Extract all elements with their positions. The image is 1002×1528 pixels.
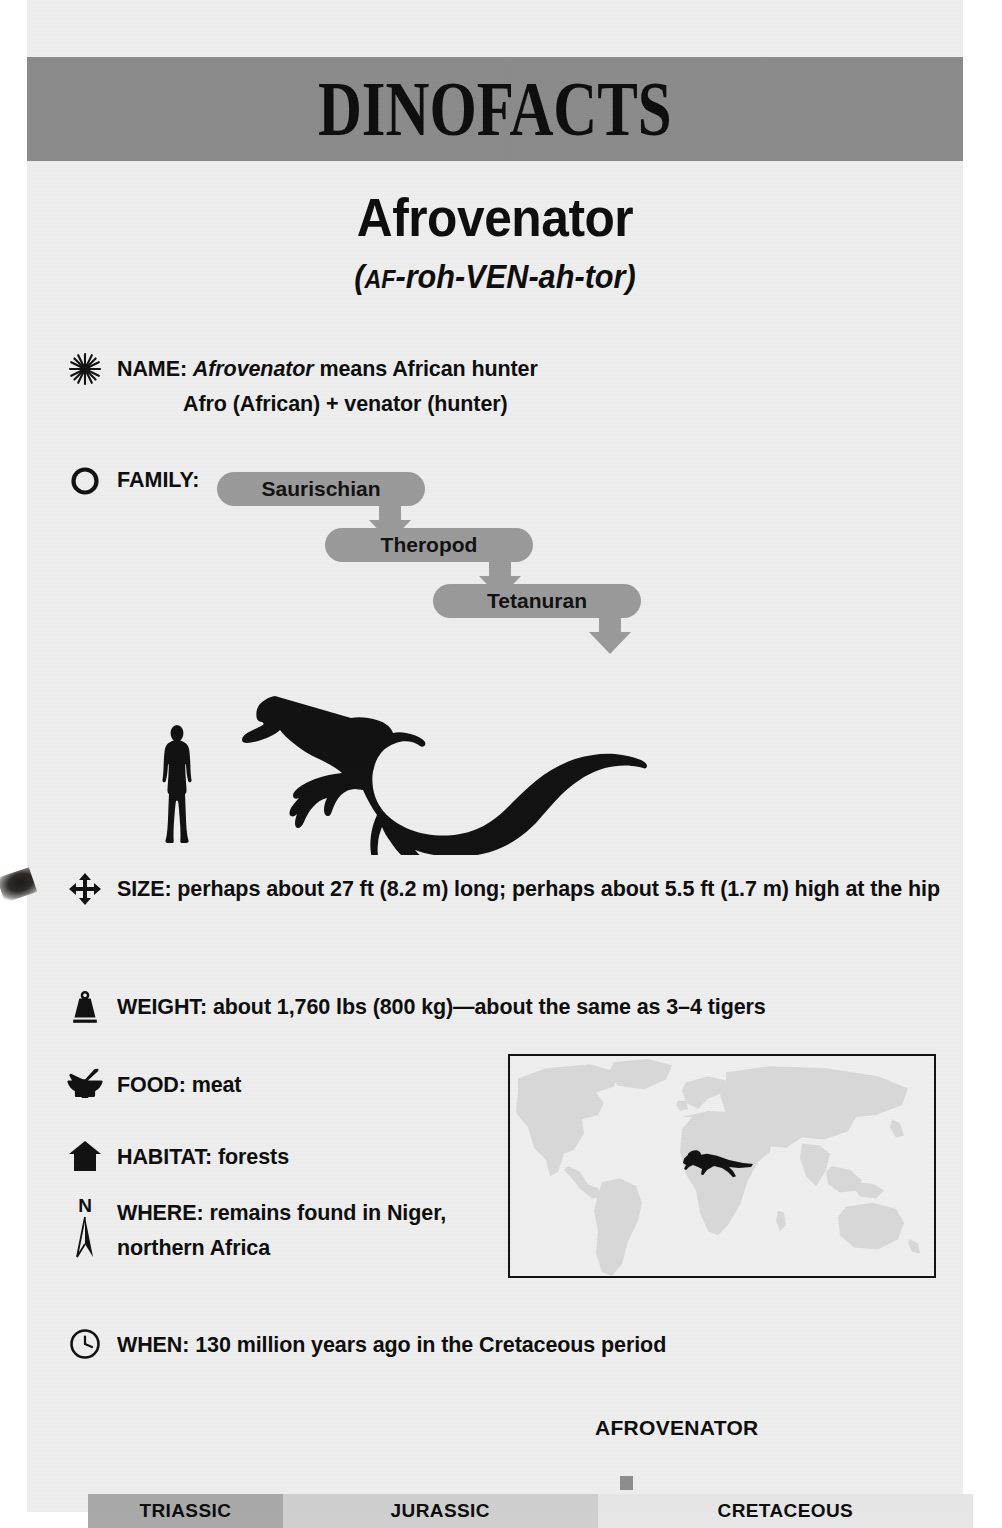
habitat-fact-text: HABITAT: forests [107, 1140, 289, 1175]
timeline-era-jurassic: JURASSIC [283, 1494, 598, 1528]
name-line-1: NAME: Afrovenator means African hunter [117, 352, 538, 387]
page-title: DINOFACTS [318, 70, 672, 148]
timeline-marker-square [620, 1476, 633, 1490]
name-label: NAME: [117, 357, 187, 381]
family-label: FAMILY: [107, 466, 199, 493]
pronunciation-open-paren: ( [354, 258, 364, 295]
scale-comparison-illustration [127, 640, 927, 855]
where-fact-text: WHERE: remains found in Niger, northern … [107, 1196, 446, 1266]
timeline-bar: TRIASSIC JURASSIC CRETACEOUS [88, 1494, 973, 1528]
family-pill-label: Theropod [381, 533, 478, 557]
dinosaur-pronunciation: (AF-roh-VEN-ah-tor) [60, 258, 930, 296]
family-pill-tetanuran: Tetanuran [433, 584, 641, 618]
family-step-1: Saurischian [217, 472, 425, 506]
mortar-pestle-icon [63, 1068, 107, 1098]
weight-fact-text: WEIGHT: about 1,760 lbs (800 kg)—about t… [107, 990, 766, 1025]
starburst-icon [63, 352, 107, 386]
weight-icon [63, 990, 107, 1024]
timeline-marker-label-text: AFROVENATOR [595, 1416, 759, 1440]
family-pill-saurischian: Saurischian [217, 472, 425, 506]
dinosaur-silhouette [215, 670, 845, 855]
pronunciation-small-caps: AF [364, 265, 395, 293]
family-pill-label: Tetanuran [487, 589, 587, 613]
fact-row-habitat: HABITAT: forests [63, 1140, 503, 1175]
house-icon [63, 1140, 107, 1172]
four-arrows-icon [63, 872, 107, 906]
timeline-era-triassic: TRIASSIC [88, 1494, 283, 1528]
family-step-2: Theropod [325, 528, 533, 562]
food-fact-text: FOOD: meat [107, 1068, 241, 1103]
pronunciation-rest: -roh-VEN-ah-tor) [395, 258, 635, 295]
compass-north-icon: N [63, 1196, 107, 1260]
fact-row-food: FOOD: meat [63, 1068, 503, 1103]
fact-sheet-page: DINOFACTS Afrovenator (AF-roh-VEN-ah-tor… [27, 0, 963, 1512]
family-pill-label: Saurischian [261, 477, 380, 501]
name-genus: Afrovenator [193, 357, 314, 381]
header-band: DINOFACTS [27, 57, 963, 161]
family-classification-chain: Saurischian Theropod Tetanuran [217, 466, 917, 636]
family-step-3: Tetanuran [433, 584, 641, 618]
fact-row-where: N WHERE: remains found in Niger, norther… [63, 1196, 503, 1266]
family-pill-theropod: Theropod [325, 528, 533, 562]
timeline-era-label: JURASSIC [391, 1500, 490, 1522]
clock-icon [63, 1328, 107, 1360]
compass-north-letter: N [78, 1196, 92, 1215]
where-line-2: northern Africa [117, 1231, 446, 1266]
timeline-era-label: TRIASSIC [139, 1500, 231, 1522]
where-line-1: WHERE: remains found in Niger, [117, 1196, 446, 1231]
fact-row-weight: WEIGHT: about 1,760 lbs (800 kg)—about t… [63, 990, 923, 1025]
fact-row-name: NAME: Afrovenator means African hunter A… [63, 352, 823, 422]
name-line-2: Afro (African) + venator (hunter) [117, 387, 538, 422]
fact-row-size: SIZE: perhaps about 27 ft (8.2 m) long; … [63, 872, 943, 907]
geologic-timeline: AFROVENATOR TRIASSIC JURASSIC CRETACEOUS [27, 1416, 963, 1512]
circle-icon [63, 466, 107, 496]
size-fact-text: SIZE: perhaps about 27 ft (8.2 m) long; … [107, 872, 940, 907]
name-fact-text: NAME: Afrovenator means African hunter A… [107, 352, 538, 422]
timeline-era-label: CRETACEOUS [718, 1500, 854, 1522]
world-map-panel [508, 1054, 936, 1278]
when-fact-text: WHEN: 130 million years ago in the Creta… [107, 1328, 666, 1363]
dinosaur-name: Afrovenator [64, 186, 925, 248]
timeline-era-cretaceous: CRETACEOUS [598, 1494, 973, 1528]
name-meaning: means African hunter [314, 357, 538, 381]
fact-row-when: WHEN: 130 million years ago in the Creta… [63, 1328, 823, 1363]
human-scale-silhouette [155, 723, 201, 849]
